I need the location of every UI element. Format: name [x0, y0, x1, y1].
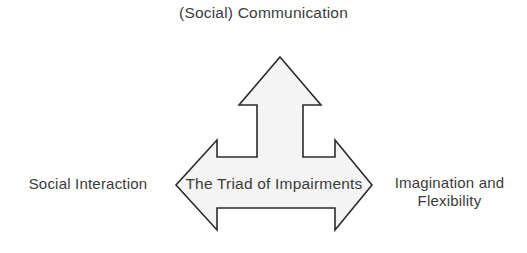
three-way-arrow-shape [176, 57, 372, 230]
arm-label-right-line-2: Flexibility [418, 192, 482, 209]
three-way-arrow-graphic [0, 0, 527, 253]
arm-label-left: Social Interaction [0, 175, 176, 193]
diagram-canvas: (Social) Communication Social Interactio… [0, 0, 527, 253]
arm-label-right-line-1: Imagination and [395, 174, 505, 191]
arm-label-right: Imagination andFlexibility [372, 174, 527, 209]
center-label: The Triad of Impairments [176, 175, 372, 193]
arm-label-top: (Social) Communication [0, 4, 527, 22]
